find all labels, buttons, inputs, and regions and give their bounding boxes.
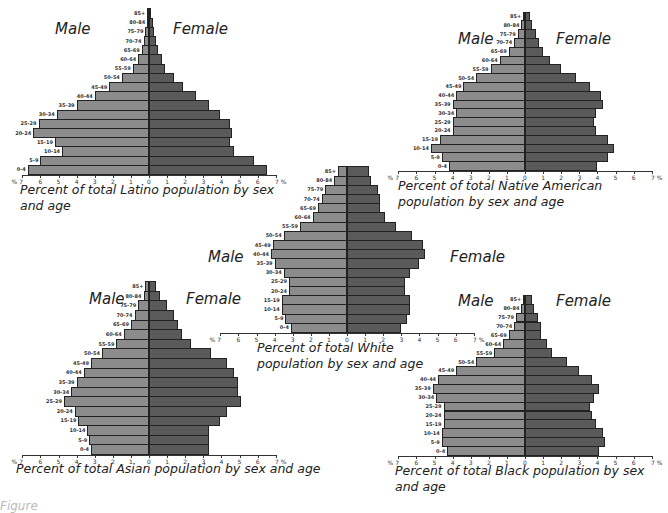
female-bar [149, 416, 220, 427]
male-bar [509, 330, 525, 340]
female-bar [525, 402, 590, 412]
female-bar [149, 358, 227, 369]
female-bar [149, 91, 196, 101]
male-bar [456, 366, 525, 376]
male-bar [77, 100, 149, 110]
age-group-label: 65-69 [286, 205, 316, 211]
female-bar [149, 128, 232, 138]
female-bar [525, 152, 608, 162]
age-group-label: 30-34 [404, 394, 434, 400]
female-label: Female [450, 248, 505, 266]
female-bar [149, 348, 211, 359]
female-bar [347, 185, 378, 195]
age-group-label: 60-64 [92, 331, 122, 337]
female-bar [525, 20, 532, 30]
male-bar [133, 64, 149, 74]
male-bar [124, 329, 149, 340]
male-bar [440, 135, 525, 145]
female-bar [347, 249, 425, 259]
male-bar [453, 126, 525, 136]
male-bar [284, 231, 347, 241]
female-bar [149, 156, 254, 166]
male-bar [433, 384, 525, 394]
male-bar [289, 277, 347, 287]
female-bar [149, 82, 183, 92]
age-group-label: 0-4 [417, 163, 447, 169]
female-bar [525, 322, 541, 332]
age-group-label: 50-54 [252, 232, 282, 238]
female-bar [525, 56, 550, 66]
female-bar [525, 339, 547, 349]
age-group-label: 35-39 [45, 102, 75, 108]
male-bar [456, 91, 525, 101]
male-bar [91, 444, 149, 455]
female-bar [149, 110, 220, 120]
female-bar [149, 100, 209, 110]
female-bar [149, 137, 230, 147]
female-bar [149, 339, 191, 350]
male-bar [285, 314, 347, 324]
age-group-label: 55-59 [101, 65, 131, 71]
male-bar [89, 435, 149, 446]
male-bar [33, 128, 149, 138]
male-bar [514, 322, 525, 332]
male-bar [463, 82, 525, 92]
age-group-label: 5-9 [410, 154, 440, 160]
female-bar [525, 126, 596, 136]
age-group-label: 35-39 [243, 260, 273, 266]
female-bar [149, 425, 209, 436]
female-label: Female [556, 30, 611, 48]
x-axis-tick-label: % 7 [209, 336, 221, 343]
male-bar [509, 47, 525, 57]
male-bar [313, 212, 347, 222]
age-group-label: 85+ [113, 283, 143, 289]
female-bar [149, 329, 182, 340]
age-group-label: 40-44 [424, 92, 454, 98]
age-group-label: 70-74 [482, 323, 512, 329]
female-bar [525, 73, 576, 83]
age-group-label: 70-74 [103, 312, 133, 318]
age-group-label: 85+ [491, 13, 521, 19]
female-bar [149, 406, 227, 417]
age-group-label: 20-24 [1, 130, 31, 136]
male-bar [444, 402, 525, 412]
age-group-label: 55-59 [268, 223, 298, 229]
age-group-label: 60-64 [106, 56, 136, 62]
female-bar [525, 330, 541, 340]
female-bar [347, 268, 410, 278]
male-bar [442, 437, 525, 447]
female-bar [149, 45, 158, 55]
male-bar [291, 323, 347, 333]
male-bar [102, 348, 149, 359]
female-bar [525, 161, 597, 171]
male-bar [500, 56, 525, 66]
female-bar [525, 117, 594, 127]
male-bar [334, 176, 347, 186]
age-group-label: 15-19 [250, 297, 280, 303]
age-group-label: 45-49 [424, 367, 454, 373]
female-bar [347, 194, 380, 204]
male-bar [431, 144, 525, 154]
male-bar [514, 38, 525, 48]
male-bar [122, 73, 149, 83]
male-bar [449, 161, 525, 171]
female-bar [149, 444, 209, 455]
female-bar [347, 277, 405, 287]
age-group-label: 15-19 [46, 417, 76, 423]
age-group-label: 65-69 [99, 321, 129, 327]
male-bar [62, 146, 149, 156]
age-group-label: 40-44 [406, 376, 436, 382]
female-label: Female [186, 290, 241, 308]
female-bar [525, 348, 552, 358]
female-bar [149, 146, 234, 156]
male-bar [138, 54, 149, 64]
male-bar [71, 387, 149, 398]
male-bar [131, 320, 149, 331]
age-group-label: 60-64 [468, 57, 498, 63]
male-bar [447, 446, 525, 456]
age-group-label: 75-79 [113, 28, 143, 34]
male-bar [325, 185, 347, 195]
female-bar [347, 222, 396, 232]
age-group-label: 25-29 [7, 120, 37, 126]
female-bar [149, 64, 165, 74]
